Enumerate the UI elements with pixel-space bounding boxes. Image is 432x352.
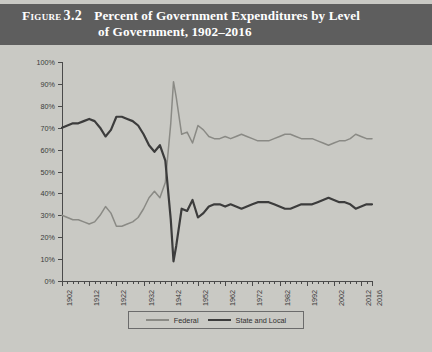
x-tick-label: 2002 xyxy=(337,290,346,306)
figure-title-line-2: of Government, 1902–2016 xyxy=(22,24,418,40)
legend-item-state-and-local: State and Local xyxy=(208,316,287,325)
plot-box: 0%10%20%30%40%50%60%70%80%90%100% 190219… xyxy=(62,62,372,281)
legend-label-federal: Federal xyxy=(174,316,199,325)
y-tick-label: 0% xyxy=(45,277,55,286)
chart-area: 0%10%20%30%40%50%60%70%80%90%100% 190219… xyxy=(0,45,432,352)
figure-label: Figure xyxy=(22,8,62,23)
y-tick-label: 20% xyxy=(41,233,55,242)
legend-swatch-federal xyxy=(146,319,169,321)
y-tick-label: 40% xyxy=(41,189,55,198)
x-tick-label: 1912 xyxy=(92,290,101,306)
x-tick-label: 1942 xyxy=(174,290,183,306)
legend-label-state-and-local: State and Local xyxy=(236,316,287,325)
y-tick-label: 90% xyxy=(41,79,55,88)
x-tick-label: 1962 xyxy=(228,290,237,306)
x-tick-label: 1952 xyxy=(201,290,210,306)
chart-legend: Federal State and Local xyxy=(128,311,304,329)
figure-container: Figure3.2Percent of Government Expenditu… xyxy=(0,0,432,352)
figure-title-line-1: Figure3.2Percent of Government Expenditu… xyxy=(22,8,418,24)
figure-number: 3.2 xyxy=(64,8,83,23)
figure-title-text-1: Percent of Government Expenditures by Le… xyxy=(94,8,360,23)
y-tick-label: 80% xyxy=(41,101,55,110)
x-tick-label: 1982 xyxy=(283,290,292,306)
y-tick-label: 60% xyxy=(41,145,55,154)
x-tick-label: 1932 xyxy=(147,290,156,306)
x-tick-label: 1922 xyxy=(119,290,128,306)
y-tick-label: 70% xyxy=(41,123,55,132)
y-tick-label: 10% xyxy=(41,255,55,264)
figure-title-banner: Figure3.2Percent of Government Expenditu… xyxy=(0,4,432,45)
x-tick-label: 1972 xyxy=(255,290,264,306)
legend-swatch-state-and-local xyxy=(208,319,231,322)
x-tick-label: 2016 xyxy=(375,290,384,306)
x-tick-label: 1992 xyxy=(310,290,319,306)
legend-item-federal: Federal xyxy=(146,316,199,325)
y-tick-label: 30% xyxy=(41,211,55,220)
y-tick-label: 100% xyxy=(37,58,55,67)
x-tick-label: 2012 xyxy=(364,290,373,306)
y-tick-label: 50% xyxy=(41,167,55,176)
x-tick-label: 1902 xyxy=(65,290,74,306)
series-lines xyxy=(62,62,373,282)
